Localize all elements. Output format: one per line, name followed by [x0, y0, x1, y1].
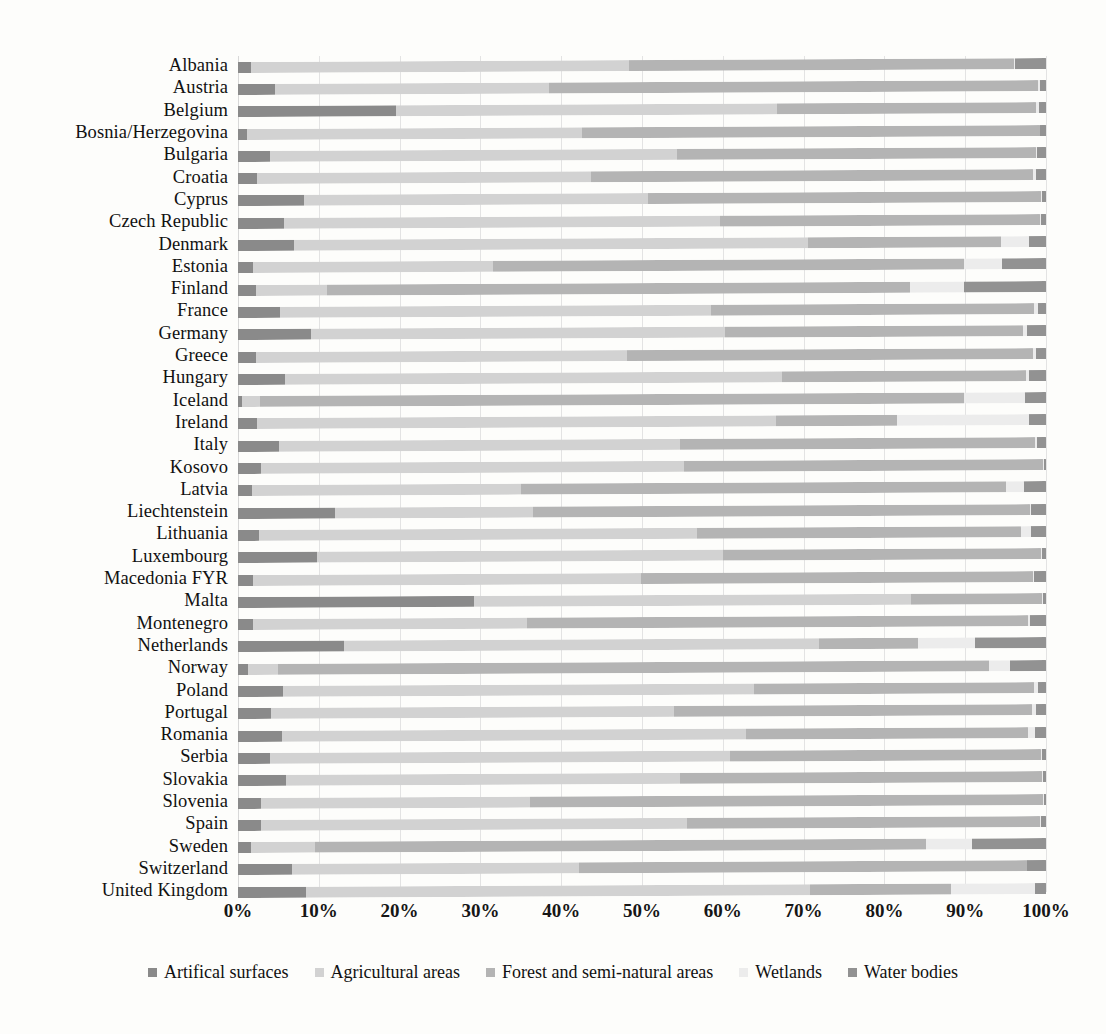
segment-agricultural-areas — [261, 796, 530, 808]
segment-forest-and-semi-natural-areas — [674, 704, 1032, 717]
category-label: Bulgaria — [0, 143, 228, 165]
segment-agricultural-areas — [286, 773, 680, 786]
segment-agricultural-areas — [251, 60, 629, 73]
legend-label: Water bodies — [864, 962, 958, 983]
segment-artifical-surfaces — [238, 886, 306, 897]
segment-forest-and-semi-natural-areas — [521, 482, 1006, 495]
x-axis-tick-label: 30% — [461, 900, 499, 922]
segment-forest-and-semi-natural-areas — [530, 794, 1042, 808]
bar-row: Germany — [0, 322, 1106, 344]
x-axis-tick-label: 100% — [1022, 900, 1070, 922]
bar-row: Denmark — [0, 232, 1106, 254]
stacked-bar — [238, 102, 1046, 117]
segment-water-bodies — [975, 637, 1046, 648]
bar-row: Romania — [0, 723, 1106, 745]
segment-wetlands — [918, 638, 975, 649]
segment-water-bodies — [1036, 169, 1046, 180]
segment-water-bodies — [1027, 325, 1046, 336]
segment-water-bodies — [1035, 727, 1046, 738]
legend-item[interactable]: Forest and semi-natural areas — [486, 962, 713, 983]
legend-item[interactable]: Artifical surfaces — [148, 962, 288, 983]
segment-forest-and-semi-natural-areas — [697, 526, 1021, 539]
category-label: Switzerland — [0, 857, 228, 879]
bar-row: Cyprus — [0, 188, 1106, 210]
segment-agricultural-areas — [251, 842, 315, 853]
legend-swatch-icon — [148, 968, 157, 977]
segment-agricultural-areas — [474, 594, 911, 607]
segment-forest-and-semi-natural-areas — [680, 771, 1042, 784]
segment-artifical-surfaces — [238, 507, 335, 518]
bar-row: Latvia — [0, 478, 1106, 500]
bar-row: Lithuania — [0, 522, 1106, 544]
category-label: Hungary — [0, 366, 228, 388]
segment-agricultural-areas — [252, 484, 521, 496]
bar-row: Sweden — [0, 835, 1106, 857]
bar-row: Belgium — [0, 99, 1106, 121]
segment-forest-and-semi-natural-areas — [754, 682, 1034, 694]
category-label: Portugal — [0, 701, 228, 723]
segment-water-bodies — [1041, 214, 1046, 225]
legend-item[interactable]: Wetlands — [739, 962, 822, 983]
segment-agricultural-areas — [257, 416, 777, 430]
category-label: Poland — [0, 679, 228, 701]
segment-agricultural-areas — [269, 751, 730, 764]
bar-row: Portugal — [0, 701, 1106, 723]
category-label: Cyprus — [0, 188, 228, 210]
segment-wetlands — [1006, 481, 1025, 492]
bar-row: Hungary — [0, 366, 1106, 388]
bar-row: Norway — [0, 656, 1106, 678]
segment-water-bodies — [1031, 504, 1046, 515]
stacked-bar — [238, 838, 1046, 853]
x-axis-tick-label: 70% — [785, 900, 823, 922]
category-label: Netherlands — [0, 634, 228, 656]
stacked-bar — [238, 169, 1046, 184]
legend-item[interactable]: Agricultural areas — [315, 962, 460, 983]
stacked-bar — [238, 459, 1046, 474]
legend-swatch-icon — [848, 968, 857, 977]
legend-swatch-icon — [486, 968, 495, 977]
category-label: Germany — [0, 322, 228, 344]
segment-artifical-surfaces — [238, 686, 283, 697]
segment-wetlands — [1028, 727, 1035, 738]
x-axis-tick-label: 20% — [381, 900, 419, 922]
segment-water-bodies — [1041, 816, 1046, 827]
segment-artifical-surfaces — [238, 708, 271, 719]
segment-water-bodies — [1040, 125, 1046, 136]
segment-water-bodies — [1029, 414, 1046, 425]
segment-water-bodies — [1029, 236, 1046, 247]
segment-artifical-surfaces — [238, 105, 396, 117]
bar-row: Slovenia — [0, 790, 1106, 812]
stacked-bar — [238, 794, 1046, 809]
segment-agricultural-areas — [396, 104, 777, 117]
segment-artifical-surfaces — [238, 329, 311, 340]
category-label: Slovenia — [0, 790, 228, 812]
category-label: Sweden — [0, 835, 228, 857]
segment-artifical-surfaces — [238, 262, 253, 273]
segment-artifical-surfaces — [238, 730, 282, 741]
stacked-bar — [238, 191, 1046, 206]
stacked-bar — [238, 571, 1046, 586]
stacked-bar — [238, 325, 1046, 340]
segment-artifical-surfaces — [238, 552, 317, 563]
segment-agricultural-areas — [335, 506, 533, 518]
segment-forest-and-semi-natural-areas — [641, 571, 1033, 584]
chart-legend: Artifical surfacesAgricultural areasFore… — [0, 962, 1106, 983]
category-label: Macedonia FYR — [0, 567, 228, 589]
segment-water-bodies — [1010, 660, 1046, 671]
stacked-bar — [238, 504, 1046, 519]
segment-artifical-surfaces — [238, 485, 252, 496]
segment-artifical-surfaces — [238, 128, 247, 139]
stacked-bar — [238, 392, 1046, 407]
segment-agricultural-areas — [284, 215, 720, 228]
segment-agricultural-areas — [282, 728, 747, 741]
legend-item[interactable]: Water bodies — [848, 962, 958, 983]
x-axis: 0%10%20%30%40%50%60%70%80%90%100% — [238, 900, 1046, 930]
stacked-bar — [238, 637, 1046, 652]
segment-water-bodies — [1024, 481, 1046, 492]
category-label: Estonia — [0, 255, 228, 277]
plot-area: AlbaniaAustriaBelgiumBosnia/HerzegovinaB… — [0, 52, 1106, 900]
segment-agricultural-areas — [269, 149, 676, 162]
bar-row: Montenegro — [0, 612, 1106, 634]
category-label: Luxembourg — [0, 545, 228, 567]
bar-row: Croatia — [0, 166, 1106, 188]
